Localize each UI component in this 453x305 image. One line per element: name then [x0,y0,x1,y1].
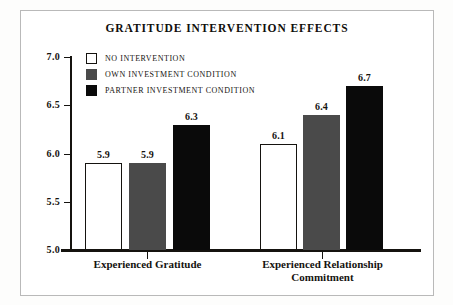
legend-label: NO INTERVENTION [105,54,185,63]
bar [303,115,340,250]
chart-title: GRATITUDE INTERVENTION EFFECTS [20,22,434,34]
legend-swatch-icon [86,85,97,96]
y-tick-label: 5.5 [26,196,60,207]
y-tick-mark [64,154,71,155]
y-tick-mark [64,202,71,203]
bar [173,125,210,250]
bar [129,163,166,250]
legend-item: NO INTERVENTION [86,50,255,66]
legend-item: OWN INVESTMENT CONDITION [86,66,255,82]
category-label: Experienced Relationship Commitment [240,258,405,284]
y-tick-label: 7.0 [26,51,60,62]
bar-value-label: 5.9 [129,149,166,160]
y-tick-label: 5.0 [26,244,60,255]
legend-label: PARTNER INVESTMENT CONDITION [105,86,255,95]
category-label: Experienced Gratitude [60,258,235,271]
bar-value-label: 6.3 [173,111,210,122]
figure: GRATITUDE INTERVENTION EFFECTS 7.06.56.0… [0,0,453,305]
bar [346,86,383,250]
bar [85,163,122,250]
legend-swatch-icon [86,53,97,64]
bar-value-label: 5.9 [85,149,122,160]
chart-legend: NO INTERVENTIONOWN INVESTMENT CONDITIONP… [86,50,255,98]
y-tick-label: 6.5 [26,99,60,110]
bar-value-label: 6.7 [346,72,383,83]
legend-item: PARTNER INVESTMENT CONDITION [86,82,255,98]
bar [260,144,297,250]
y-tick-mark [64,250,71,251]
legend-label: OWN INVESTMENT CONDITION [105,70,237,79]
bar-value-label: 6.1 [260,130,297,141]
y-tick-mark [64,105,71,106]
bar-value-label: 6.4 [303,101,340,112]
y-tick-label: 6.0 [26,148,60,159]
legend-swatch-icon [86,69,97,80]
y-tick-mark [64,57,71,58]
